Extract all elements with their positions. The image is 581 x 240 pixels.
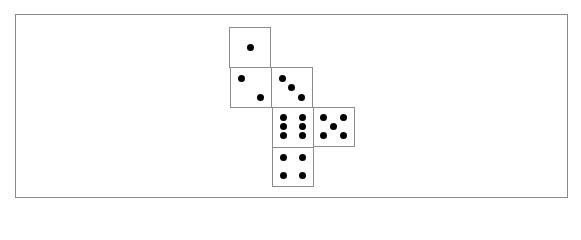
pip-dot-icon [320,114,327,121]
pip-dot-icon [340,114,347,121]
pip-dot-icon [299,172,306,179]
pip-dot-icon [299,154,306,161]
pip-dot-icon [320,132,327,139]
pip-dot-icon [280,132,287,139]
pip-dot-icon [330,123,337,130]
pip-dot-icon [340,132,347,139]
pip-dot-icon [298,94,305,101]
pip-dot-icon [299,123,306,130]
die-face-two [230,67,272,108]
pip-dot-icon [280,172,287,179]
pip-dot-icon [279,75,286,82]
pip-dot-icon [299,132,306,139]
die-face-four [272,147,314,187]
die-face-six [272,107,314,148]
pip-dot-icon [280,114,287,121]
pip-dot-icon [280,123,287,130]
pip-dot-icon [257,94,264,101]
pip-dot-icon [299,114,306,121]
pip-dot-icon [280,154,287,161]
pip-dot-icon [247,44,254,51]
pip-dot-icon [288,84,295,91]
pip-dot-icon [238,75,245,82]
